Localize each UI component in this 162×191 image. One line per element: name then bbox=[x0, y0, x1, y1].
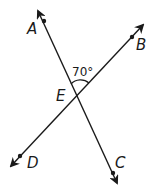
label-e: E bbox=[56, 87, 66, 105]
point-b-dot bbox=[130, 35, 134, 39]
line-db bbox=[11, 25, 143, 166]
label-d: D bbox=[27, 154, 39, 172]
diagram-canvas: A B E D C 70° bbox=[0, 0, 162, 191]
angle-arc bbox=[71, 80, 89, 84]
point-d-dot bbox=[18, 154, 22, 158]
point-a-dot bbox=[42, 19, 46, 23]
line-ac bbox=[38, 11, 117, 183]
label-c: C bbox=[115, 154, 126, 172]
label-b: B bbox=[136, 36, 146, 54]
angle-label: 70° bbox=[72, 65, 93, 79]
label-a: A bbox=[26, 20, 37, 38]
